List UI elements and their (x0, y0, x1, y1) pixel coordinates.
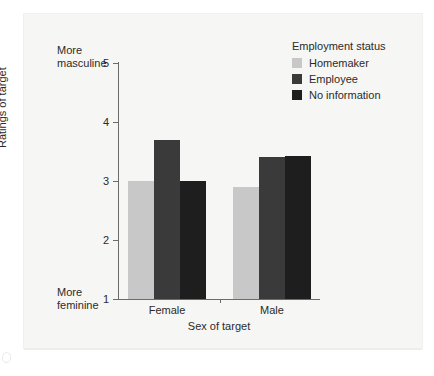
x-tick-label-male: Male (260, 304, 284, 316)
figure: More masculine More feminine Ratings of … (0, 0, 434, 376)
page-artifact (2, 352, 11, 363)
bar-male-homemaker (233, 187, 259, 299)
legend-swatch-icon (292, 58, 302, 68)
y-tick-label-3: 3 (103, 175, 109, 187)
y-axis-title: Ratings of target (0, 67, 8, 148)
y-tick-label-4: 4 (103, 116, 109, 128)
bar-female-homemaker (128, 181, 154, 299)
y-axis-low-anchor-line2: feminine (57, 299, 99, 312)
y-tick-5 (113, 63, 118, 64)
legend-item-employee: Employee (292, 73, 386, 85)
y-axis-low-anchor-line1: More (57, 286, 99, 299)
bar-female-employee (154, 140, 180, 299)
legend: Employment status HomemakerEmployeeNo in… (292, 40, 386, 105)
x-axis-title: Sex of target (118, 320, 320, 332)
legend-items: HomemakerEmployeeNo information (292, 57, 386, 101)
y-tick-label-1: 1 (103, 293, 109, 305)
y-axis-high-anchor-line2: masculine (57, 57, 107, 70)
y-tick-4 (113, 122, 118, 123)
legend-label: Homemaker (309, 57, 369, 69)
legend-swatch-icon (292, 90, 302, 100)
y-axis-high-anchor-line1: More (57, 44, 107, 57)
bar-female-no-information (180, 181, 206, 299)
legend-swatch-icon (292, 74, 302, 84)
legend-item-no-information: No information (292, 89, 386, 101)
legend-title: Employment status (292, 40, 386, 52)
y-tick-label-5: 5 (103, 57, 109, 69)
bar-male-employee (259, 157, 285, 299)
plot-area: 12345 (118, 63, 320, 299)
legend-item-homemaker: Homemaker (292, 57, 386, 69)
y-axis-low-anchor: More feminine (57, 286, 99, 312)
x-tick-midpoint (220, 299, 221, 303)
y-tick-1 (113, 299, 118, 300)
legend-label: Employee (309, 73, 358, 85)
y-axis-high-anchor: More masculine (57, 44, 107, 70)
bar-male-no-information (285, 156, 311, 299)
y-tick-3 (113, 181, 118, 182)
y-tick-label-2: 2 (103, 234, 109, 246)
x-tick-label-female: Female (149, 304, 186, 316)
x-axis-line (118, 299, 320, 300)
legend-label: No information (309, 89, 381, 101)
y-tick-2 (113, 240, 118, 241)
